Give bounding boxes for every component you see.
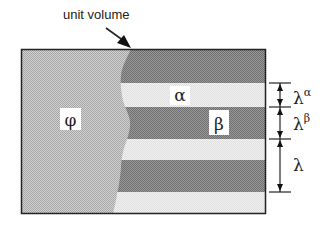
alpha-label: α xyxy=(174,85,186,105)
lambda-alpha-label: λα xyxy=(293,86,312,108)
phi-region xyxy=(21,49,131,214)
lamellar-bands xyxy=(21,49,266,214)
lambda-beta-label: λβ xyxy=(293,112,310,134)
unit-volume-label: unit volume xyxy=(63,7,129,22)
phi-label: φ xyxy=(65,110,77,130)
lambda-label: λ xyxy=(293,155,304,175)
beta-label: β xyxy=(214,114,224,134)
lamellar-diagram: unit volume φ α β λα λβ λ xyxy=(0,0,326,226)
